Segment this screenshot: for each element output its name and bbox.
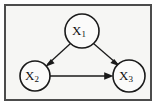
node-x2[interactable]: X2 <box>20 61 50 91</box>
edge-x2-x3[interactable] <box>50 72 114 79</box>
edge-group <box>45 44 120 80</box>
node-x3[interactable]: X3 <box>113 60 145 92</box>
node-group: X1 X2 X3 <box>20 14 145 92</box>
edge-x2-x3-arrowhead <box>104 72 113 79</box>
node-x1[interactable]: X1 <box>65 14 99 48</box>
graph-canvas: X1 X2 X3 <box>0 0 160 108</box>
figure-root: X1 X2 X3 <box>0 0 160 108</box>
edge-x1-x2[interactable] <box>45 44 71 68</box>
node-x1-subscript: 1 <box>81 29 86 39</box>
node-x3-subscript: 3 <box>128 74 133 84</box>
edge-x1-x3[interactable] <box>94 44 121 67</box>
node-x2-subscript: 2 <box>34 74 39 84</box>
